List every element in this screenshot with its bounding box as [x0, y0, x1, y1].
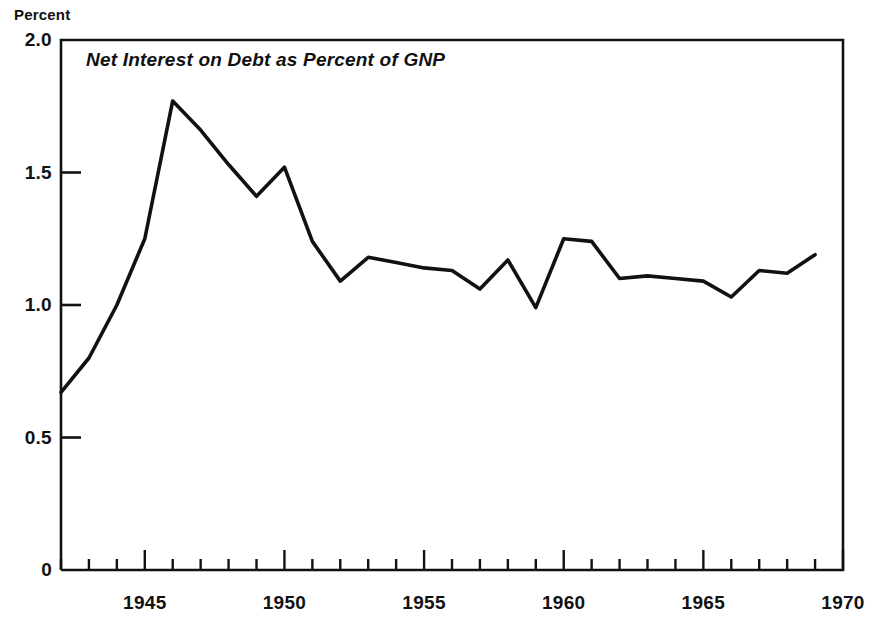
data-series-line	[61, 101, 815, 393]
x-axis-tick-label: 1960	[542, 592, 585, 614]
chart-title: Net Interest on Debt as Percent of GNP	[86, 49, 445, 71]
y-axis-tick-label: 1.0	[0, 294, 52, 316]
x-axis-tick-label: 1970	[821, 592, 864, 614]
axis-ticks	[61, 173, 843, 571]
x-axis-tick-label: 1965	[682, 592, 725, 614]
x-axis-tick-label: 1945	[123, 592, 166, 614]
y-axis-tick-label: 0.5	[0, 427, 52, 449]
y-axis-tick-label: 2.0	[0, 29, 52, 51]
y-axis-tick-label: 1.5	[0, 162, 52, 184]
chart-figure: Percent Net Interest on Debt as Percent …	[0, 0, 872, 623]
line-chart-plot	[0, 0, 872, 623]
axes-frame	[61, 40, 843, 570]
x-axis-tick-label: 1950	[263, 592, 306, 614]
plot-frame	[61, 40, 843, 570]
y-axis-tick-label: 0	[0, 559, 52, 581]
x-axis-tick-label: 1955	[402, 592, 445, 614]
y-axis-unit-label: Percent	[14, 6, 70, 23]
